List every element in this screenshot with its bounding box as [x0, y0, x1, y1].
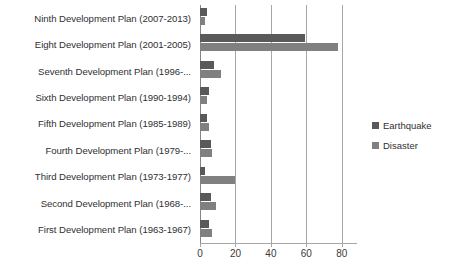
legend-swatch-icon [372, 142, 379, 149]
plot-area [200, 5, 356, 243]
bar-chart: Ninth Development Plan (2007-2013)Eight … [0, 0, 457, 274]
bar-earthquake [200, 140, 211, 148]
bar-row [200, 164, 356, 190]
value-tick-mark [271, 243, 272, 247]
value-tick-label: 80 [336, 248, 347, 259]
bar-disaster [200, 202, 216, 210]
bar-disaster [200, 96, 207, 104]
legend-item[interactable]: Disaster [372, 140, 452, 151]
bar-disaster [200, 123, 209, 131]
bar-disaster [200, 229, 212, 237]
category-label: Fourth Development Plan (1979-... [0, 137, 196, 163]
category-label: Seventh Development Plan (1996-... [0, 58, 196, 84]
bar-row [200, 5, 356, 31]
bar-rows [200, 5, 356, 243]
value-tick-label: 40 [265, 248, 276, 259]
value-tick-label: 60 [301, 248, 312, 259]
bar-row [200, 137, 356, 163]
bar-earthquake [200, 34, 305, 42]
legend-label: Disaster [383, 140, 418, 151]
category-label: First Development Plan (1963-1967) [0, 217, 196, 243]
bar-disaster [200, 43, 338, 51]
bar-row [200, 217, 356, 243]
value-tick-mark [306, 243, 307, 247]
bar-earthquake [200, 87, 209, 95]
legend-item[interactable]: Earthquake [372, 120, 452, 131]
category-label: Ninth Development Plan (2007-2013) [0, 5, 196, 31]
bar-disaster [200, 70, 221, 78]
value-tick-mark [200, 243, 201, 247]
value-tick-mark [342, 243, 343, 247]
bar-row [200, 190, 356, 216]
legend-swatch-icon [372, 122, 379, 129]
bar-disaster [200, 149, 212, 157]
bar-row [200, 58, 356, 84]
bar-disaster [200, 17, 205, 25]
category-label: Second Development Plan (1968-... [0, 190, 196, 216]
value-tick-label: 0 [197, 248, 203, 259]
chart-legend: EarthquakeDisaster [372, 120, 452, 160]
bar-earthquake [200, 167, 205, 175]
bar-row [200, 111, 356, 137]
bar-row [200, 84, 356, 110]
category-label: Third Development Plan (1973-1977) [0, 164, 196, 190]
value-tick-label: 20 [230, 248, 241, 259]
bar-disaster [200, 176, 235, 184]
category-axis-labels: Ninth Development Plan (2007-2013)Eight … [0, 5, 196, 243]
value-tick-mark [235, 243, 236, 247]
category-axis-line [200, 243, 357, 244]
category-label: Fifth Development Plan (1985-1989) [0, 111, 196, 137]
bar-earthquake [200, 8, 207, 16]
category-label: Eight Development Plan (2001-2005) [0, 31, 196, 57]
value-axis-tick-labels: 020406080 [200, 248, 360, 264]
bar-earthquake [200, 114, 207, 122]
bar-earthquake [200, 220, 209, 228]
bar-row [200, 31, 356, 57]
bar-earthquake [200, 61, 214, 69]
category-label: Sixth Development Plan (1990-1994) [0, 84, 196, 110]
bar-earthquake [200, 193, 211, 201]
legend-label: Earthquake [383, 120, 432, 131]
